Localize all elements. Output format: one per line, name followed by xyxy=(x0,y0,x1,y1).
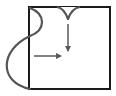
diagram-canvas xyxy=(0,0,116,96)
left-curve xyxy=(7,8,42,89)
top-notch xyxy=(57,7,80,19)
